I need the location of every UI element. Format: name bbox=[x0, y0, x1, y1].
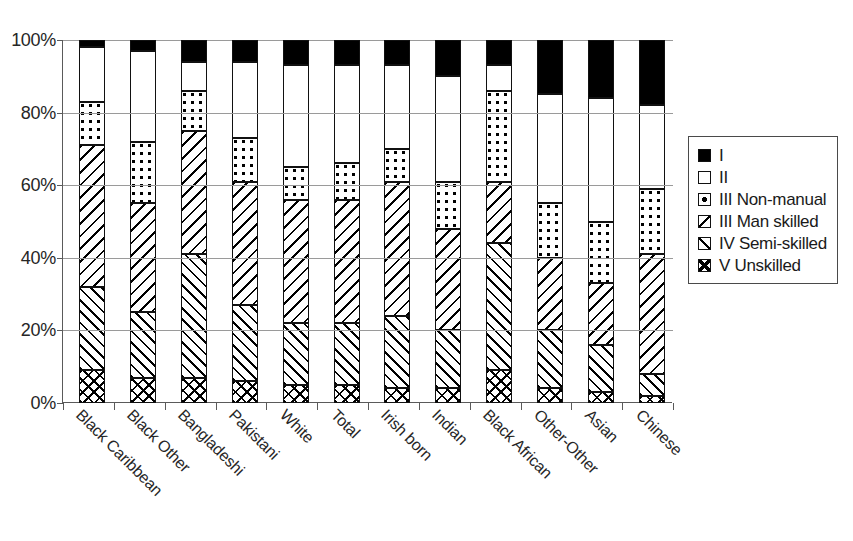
bar-segment bbox=[435, 40, 461, 76]
bar-segment bbox=[334, 323, 360, 385]
y-axis-tick-label: 100% bbox=[11, 30, 56, 51]
legend-item-label: III Man skilled bbox=[719, 213, 818, 230]
y-axis-tick-label: 40% bbox=[21, 247, 56, 268]
bar-segment bbox=[588, 392, 614, 403]
bar-segment bbox=[486, 65, 512, 90]
gridline bbox=[63, 258, 673, 259]
bar-segment bbox=[384, 149, 410, 182]
bar-segment bbox=[79, 40, 105, 47]
bar-segment bbox=[384, 388, 410, 403]
bar bbox=[130, 40, 156, 403]
y-axis-tick bbox=[57, 40, 63, 41]
bar-segment bbox=[537, 40, 563, 94]
bar-segment bbox=[232, 62, 258, 138]
gridline bbox=[63, 185, 673, 186]
x-axis-category-label: Indian bbox=[429, 406, 472, 449]
bar-segment bbox=[181, 40, 207, 62]
bar-segment bbox=[639, 396, 665, 403]
legend-item-label: II bbox=[719, 169, 728, 186]
bar-segment bbox=[283, 385, 309, 403]
bar-segment bbox=[537, 258, 563, 331]
y-axis-tick bbox=[57, 258, 63, 259]
bar-segment bbox=[588, 222, 614, 284]
bar bbox=[537, 40, 563, 403]
white-swatch-icon bbox=[698, 171, 711, 184]
bar-segment bbox=[79, 145, 105, 287]
plot-area bbox=[62, 40, 672, 403]
y-axis-tick-label: 60% bbox=[21, 175, 56, 196]
bar-segment bbox=[384, 182, 410, 316]
bar-segment bbox=[79, 287, 105, 370]
bar-segment bbox=[486, 182, 512, 244]
legend-item[interactable]: III Non-manual bbox=[698, 188, 829, 210]
y-axis-tick-label: 80% bbox=[21, 102, 56, 123]
bar-segment bbox=[232, 182, 258, 305]
bar-segment bbox=[537, 94, 563, 203]
bar-segment bbox=[130, 51, 156, 142]
bar bbox=[639, 40, 665, 403]
bar-segment bbox=[537, 388, 563, 403]
bar-segment bbox=[181, 254, 207, 377]
bar-segment bbox=[537, 203, 563, 257]
bar-segment bbox=[639, 105, 665, 188]
forward-hatch-swatch-icon bbox=[698, 237, 711, 250]
bar-segment bbox=[384, 40, 410, 65]
y-axis-tick bbox=[57, 113, 63, 114]
bar-segment bbox=[232, 40, 258, 62]
bar-segment bbox=[283, 323, 309, 385]
bar-segment bbox=[283, 65, 309, 167]
y-axis-tick-label: 0% bbox=[31, 393, 56, 414]
bar-segment bbox=[181, 62, 207, 91]
legend-item[interactable]: II bbox=[698, 166, 829, 188]
x-axis-tick bbox=[673, 403, 674, 410]
bar-segment bbox=[130, 312, 156, 377]
bar-segment bbox=[639, 189, 665, 254]
gridline bbox=[63, 330, 673, 331]
bar bbox=[232, 40, 258, 403]
y-axis-tick bbox=[57, 185, 63, 186]
x-axis-category-label: Asian bbox=[581, 406, 621, 446]
gridline bbox=[63, 113, 673, 114]
bar bbox=[384, 40, 410, 403]
bar bbox=[181, 40, 207, 403]
x-axis-category-label: Chinese bbox=[632, 406, 685, 459]
cross-hatch-swatch-icon bbox=[698, 259, 711, 272]
legend-item[interactable]: I bbox=[698, 144, 829, 166]
y-axis-labels: 0%20%40%60%80%100% bbox=[0, 40, 56, 403]
bar-segment bbox=[283, 167, 309, 200]
stacked-bar-chart: 0%20%40%60%80%100% Black CaribbeanBlack … bbox=[0, 0, 853, 541]
back-hatch-swatch-icon bbox=[698, 215, 711, 228]
legend-item-label: V Unskilled bbox=[719, 257, 801, 274]
bar bbox=[588, 40, 614, 403]
y-axis-tick-label: 20% bbox=[21, 320, 56, 341]
bar-segment bbox=[79, 370, 105, 403]
x-axis-category-label: Black Caribbean bbox=[73, 406, 167, 500]
x-axis-category-label: White bbox=[276, 406, 317, 447]
bar-segment bbox=[79, 47, 105, 101]
bar-segment bbox=[232, 305, 258, 381]
legend-item[interactable]: V Unskilled bbox=[698, 254, 829, 276]
bar-segment bbox=[537, 330, 563, 388]
x-axis-category-labels: Black CaribbeanBlack OtherBangladeshiPak… bbox=[62, 406, 672, 526]
y-axis-tick bbox=[57, 330, 63, 331]
bar-segment bbox=[79, 102, 105, 146]
bar-segment bbox=[435, 388, 461, 403]
bar-segment bbox=[334, 385, 360, 403]
bar-segment bbox=[384, 65, 410, 148]
chart-legend: IIIIII Non-manualIII Man skilledIV Semi-… bbox=[688, 136, 838, 284]
bar-segment bbox=[435, 182, 461, 229]
dotted-swatch-icon bbox=[698, 193, 711, 206]
legend-item[interactable]: III Man skilled bbox=[698, 210, 829, 232]
solid-black-swatch-icon bbox=[698, 149, 711, 162]
legend-item-label: IV Semi-skilled bbox=[719, 235, 827, 252]
legend-item[interactable]: IV Semi-skilled bbox=[698, 232, 829, 254]
bar-segment bbox=[334, 40, 360, 65]
bar-segment bbox=[130, 40, 156, 51]
bar-segment bbox=[130, 142, 156, 204]
bar bbox=[334, 40, 360, 403]
bar-segment bbox=[283, 40, 309, 65]
bar bbox=[486, 40, 512, 403]
x-axis-category-label: Total bbox=[327, 406, 363, 442]
bar-segment bbox=[130, 378, 156, 403]
legend-item-label: III Non-manual bbox=[719, 191, 826, 208]
